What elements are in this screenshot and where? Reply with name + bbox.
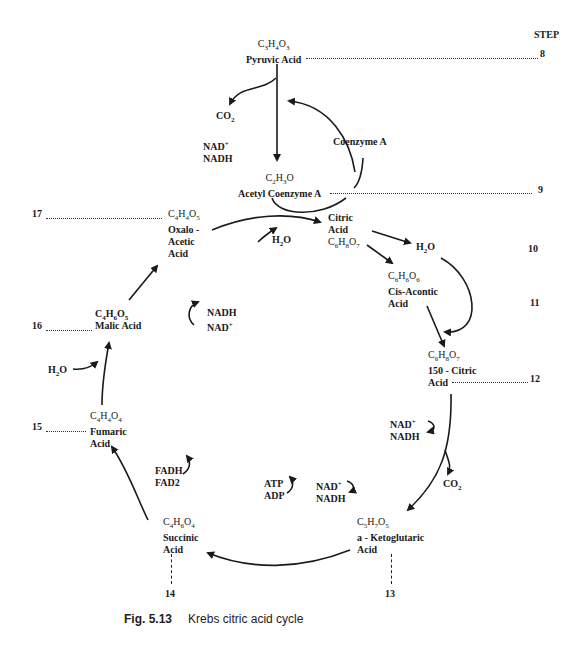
compound-malic-name: Malic Acid bbox=[95, 320, 141, 332]
figure-number: Fig. 5.13 bbox=[124, 612, 172, 626]
arrow-h2o-to-isocitric bbox=[441, 258, 472, 332]
arrow-co2-iso bbox=[445, 450, 450, 474]
formula: C4H6O4 bbox=[163, 516, 199, 532]
dash-step-14 bbox=[171, 554, 172, 584]
leader-dots-step-8 bbox=[306, 58, 538, 59]
name-line2: Acid bbox=[388, 298, 438, 310]
compound-ketoglutaric: C5H7O5 a - Ketoglutaric Acid bbox=[357, 516, 424, 556]
compound-isocitric: C6H8O7 150 - Citric Acid bbox=[428, 349, 476, 389]
name-line1: Citric bbox=[328, 212, 360, 224]
nad-iso-group: NAD+ NADH bbox=[390, 416, 419, 443]
nad-top: NAD+ bbox=[203, 138, 232, 153]
curl-nad-iso bbox=[428, 421, 434, 432]
arrow-citric-to-h2o bbox=[372, 231, 410, 243]
formula: C4H4O5 bbox=[168, 208, 200, 224]
arrow-h2o-fumaric bbox=[73, 362, 97, 369]
step-11: 11 bbox=[530, 297, 539, 308]
curl-atp bbox=[287, 477, 293, 493]
step-10: 10 bbox=[528, 243, 538, 254]
step-9: 9 bbox=[538, 184, 543, 195]
h2o-from-citric: H2O bbox=[416, 241, 435, 257]
arc-acetyl-to-citric bbox=[272, 198, 346, 212]
h2o-fumaric: H2O bbox=[48, 364, 67, 380]
name-line1: a - Ketoglutaric bbox=[357, 532, 424, 544]
pathway-arrows bbox=[0, 0, 571, 650]
arrow-malic-to-oxaloacetate bbox=[129, 266, 157, 300]
compound-acetyl-coa: C2H3O Acetyl Coenzyme A bbox=[238, 172, 321, 200]
name-line2: Acid bbox=[428, 377, 476, 389]
name: Acetyl Coenzyme A bbox=[238, 188, 321, 200]
coenzyme-a: Coenzyme A bbox=[333, 136, 387, 148]
name-line2: Acid bbox=[163, 544, 199, 556]
step-8: 8 bbox=[540, 48, 545, 59]
arrow-ketoglutaric-to-succinic bbox=[208, 550, 350, 565]
compound-fumaric: C4H4O4 Fumaric Acid bbox=[90, 410, 127, 450]
step-header: STEP bbox=[534, 29, 559, 40]
name-line1: Oxalo - bbox=[168, 224, 200, 236]
leader-dots-step-12 bbox=[452, 382, 528, 383]
nad-keto: NAD+ bbox=[316, 478, 345, 493]
name-line2: Acetic bbox=[168, 236, 200, 248]
nadh-malic-group: NADH NAD+ bbox=[207, 307, 236, 334]
figure-caption: Fig. 5.13Krebs citric acid cycle bbox=[124, 612, 303, 626]
leader-dots-step-16 bbox=[46, 330, 92, 331]
step-15: 15 bbox=[32, 421, 42, 432]
atp: ATP bbox=[264, 478, 285, 490]
name-line3: Acid bbox=[168, 248, 200, 260]
name-line2: Acid bbox=[90, 438, 127, 450]
formula: C5H7O5 bbox=[357, 516, 424, 532]
co2-top: CO2 bbox=[216, 110, 235, 126]
nad-keto-group: NAD+ NADH bbox=[316, 478, 345, 505]
fad-group: FADH FAD2 bbox=[155, 465, 183, 489]
step-17: 17 bbox=[32, 208, 42, 219]
arrow-citric-to-cisaconitic bbox=[367, 245, 392, 263]
step-16: 16 bbox=[32, 320, 42, 331]
step-14: 14 bbox=[165, 588, 175, 599]
formula: C4H4O4 bbox=[90, 410, 127, 426]
nad-iso: NAD+ bbox=[390, 416, 419, 431]
formula: C6H6O6 bbox=[388, 270, 438, 286]
figure-title: Krebs citric acid cycle bbox=[188, 612, 303, 626]
adp: ADP bbox=[264, 490, 285, 502]
step-12: 12 bbox=[530, 373, 540, 384]
h2o-into-citric: H2O bbox=[272, 234, 291, 250]
name-line1: 150 - Citric bbox=[428, 365, 476, 377]
dash-step-13 bbox=[391, 554, 392, 584]
fadh: FADH bbox=[155, 465, 183, 477]
arrow-co2-release bbox=[230, 78, 276, 104]
nadh-keto: NADH bbox=[316, 493, 345, 505]
nadh-iso: NADH bbox=[390, 431, 419, 443]
fad: FAD2 bbox=[155, 477, 183, 489]
name-line1: Succinic bbox=[163, 532, 199, 544]
leader-dots-step-15 bbox=[46, 431, 86, 432]
co2-iso: CO2 bbox=[443, 478, 462, 494]
compound-succinic: C4H6O4 Succinic Acid bbox=[163, 516, 199, 556]
name: Pyruvic Acid bbox=[246, 54, 301, 66]
formula: C6H8O7 bbox=[428, 349, 476, 365]
compound-cis-aconitic: C6H6O6 Cis-Acontic Acid bbox=[388, 270, 438, 310]
arc-coenzyme-to-acetyl bbox=[354, 158, 363, 188]
arrow-cisaconitic-to-isocitric bbox=[427, 306, 444, 346]
compound-pyruvic: C3H4O3 Pyruvic Acid bbox=[246, 38, 301, 66]
step-13: 13 bbox=[385, 588, 395, 599]
leader-dots-step-9 bbox=[330, 193, 532, 194]
name-line1: Cis-Acontic bbox=[388, 286, 438, 298]
compound-citric: Citric Acid C6H8O7 bbox=[328, 212, 360, 252]
nad-malic: NAD+ bbox=[207, 319, 236, 334]
arrow-oxaloacetate-to-citric bbox=[212, 216, 320, 230]
nadh-malic: NADH bbox=[207, 307, 236, 319]
formula: C2H3O bbox=[238, 172, 321, 188]
compound-oxaloacetic: C4H4O5 Oxalo - Acetic Acid bbox=[168, 208, 200, 260]
atp-group: ATP ADP bbox=[264, 478, 285, 502]
name-line1: Fumaric bbox=[90, 426, 127, 438]
nadh-top: NADH bbox=[203, 153, 232, 165]
formula: C6H8O7 bbox=[328, 236, 360, 252]
curl-fadh bbox=[183, 456, 190, 474]
arrow-fumaric-to-malic bbox=[102, 343, 109, 405]
arrow-succinic-to-fumaric bbox=[112, 447, 148, 520]
name-line2: Acid bbox=[328, 224, 360, 236]
curl-nadh-malic bbox=[189, 302, 198, 325]
leader-dots-step-17 bbox=[46, 218, 162, 219]
nad-top-group: NAD+ NADH bbox=[203, 138, 232, 165]
curl-nad-keto bbox=[347, 481, 353, 492]
